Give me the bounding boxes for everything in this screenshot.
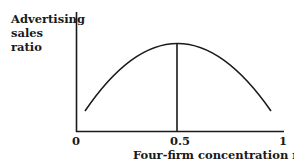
x-tick-0-5: 0.5 [170,134,190,148]
x-tick-0: 0 [72,134,80,148]
x-tick-1: 1 [279,134,287,148]
inverted-u-curve [85,44,271,112]
x-axis-label: Four-firm concentration ratio [133,148,294,162]
chart-plot [0,0,294,167]
